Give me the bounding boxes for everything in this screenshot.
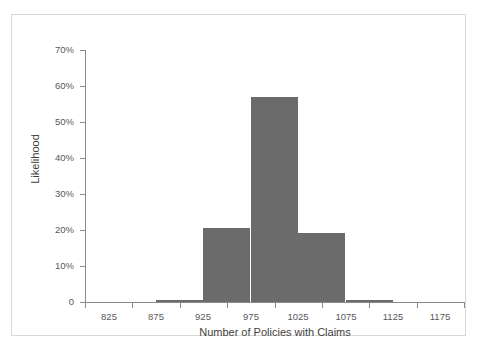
plot-area [85, 50, 464, 302]
x-tick-mark [275, 303, 276, 308]
x-axis-title: Number of Policies with Claims [85, 326, 465, 338]
x-tick-label: 875 [131, 311, 181, 323]
x-tick-label: 1025 [273, 311, 323, 323]
chart-figure: 010%20%30%40%50%60%70% 82587592597510251… [0, 0, 478, 350]
x-tick-label: 1175 [415, 311, 465, 323]
bar [156, 300, 203, 302]
bar [251, 97, 298, 302]
y-axis-title: Likelihood [29, 114, 41, 204]
x-tick-label: 1125 [368, 311, 418, 323]
figure-frame: 010%20%30%40%50%60%70% 82587592597510251… [11, 14, 466, 336]
x-tick-label: 1075 [321, 311, 371, 323]
x-tick-mark [322, 303, 323, 308]
x-tick-mark [417, 303, 418, 308]
x-tick-mark [369, 303, 370, 308]
y-tick-label: 70% [28, 45, 74, 55]
x-tick-label: 975 [226, 311, 276, 323]
y-tick-label: 60% [28, 81, 74, 91]
x-tick-label: 925 [178, 311, 228, 323]
x-tick-mark [227, 303, 228, 308]
x-tick-mark [180, 303, 181, 308]
bar [203, 228, 250, 302]
x-tick-mark [132, 303, 133, 308]
y-tick-label: 10% [28, 261, 74, 271]
bar [298, 233, 345, 302]
bar [346, 300, 393, 302]
y-tick-label: 20% [28, 225, 74, 235]
x-tick-mark [464, 303, 465, 308]
y-tick-label: 0 [28, 297, 74, 307]
x-tick-label: 825 [84, 311, 134, 323]
x-tick-mark [85, 303, 86, 308]
